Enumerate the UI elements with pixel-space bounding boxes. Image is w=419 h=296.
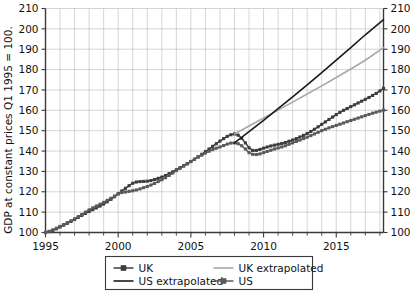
series-marker	[302, 134, 305, 137]
legend-label: UK	[139, 262, 155, 274]
series-marker	[382, 87, 385, 90]
series-marker	[375, 92, 378, 95]
series-marker	[360, 115, 363, 118]
series-marker	[378, 89, 381, 92]
series-marker	[135, 188, 138, 191]
series-marker	[302, 137, 305, 140]
series-marker	[338, 111, 341, 114]
series-marker	[211, 145, 214, 148]
series-marker	[327, 118, 330, 121]
series-marker	[371, 94, 374, 97]
x-tick-label: 2015	[323, 240, 350, 252]
series-marker	[353, 103, 356, 106]
series-marker	[128, 184, 131, 187]
series-marker	[255, 149, 258, 152]
legend-label: US extrapolated	[139, 275, 224, 287]
series-marker	[44, 231, 47, 234]
series-marker	[251, 153, 254, 156]
series-marker	[153, 178, 156, 181]
series-marker	[360, 100, 363, 103]
series-marker	[73, 217, 76, 220]
axes	[46, 9, 384, 233]
series-marker	[222, 137, 225, 140]
series-marker	[306, 136, 309, 139]
y-tick-label: 200	[18, 23, 38, 35]
series-marker	[178, 167, 181, 170]
series-marker	[164, 176, 167, 179]
y-tick-label-right: 120	[391, 185, 411, 197]
series-marker	[382, 109, 385, 112]
series-marker	[244, 147, 247, 150]
series-marker	[324, 128, 327, 131]
series-marker	[320, 123, 323, 126]
series-marker	[175, 169, 178, 172]
series-marker	[106, 199, 109, 202]
x-axis-ticks: 19952000200520102015	[32, 233, 380, 252]
y-tick-label: 130	[18, 165, 38, 177]
series-marker	[237, 134, 240, 137]
series-marker	[124, 190, 127, 193]
series-marker	[346, 120, 349, 123]
series-marker	[349, 105, 352, 108]
y-tick-label: 180	[18, 63, 38, 75]
y-tick-label: 160	[18, 104, 38, 116]
y-tick-label-right: 160	[391, 104, 411, 116]
x-tick-label: 1995	[32, 240, 59, 252]
x-tick-label: 2005	[178, 240, 205, 252]
series-marker	[226, 143, 229, 146]
series-marker	[55, 227, 58, 230]
series-marker	[182, 165, 185, 168]
chart-canvas: 100110120130140150160170180190200210 100…	[0, 0, 419, 296]
series-marker	[215, 142, 218, 145]
series-marker	[229, 133, 232, 136]
series-marker	[88, 208, 91, 211]
grid-lines	[46, 9, 384, 233]
y-tick-label: 100	[18, 226, 38, 238]
series-marker	[309, 134, 312, 137]
series-marker	[91, 206, 94, 209]
series-marker	[298, 135, 301, 138]
gdp-chart-figure: 100110120130140150160170180190200210 100…	[0, 0, 419, 296]
y-tick-label: 150	[18, 124, 38, 136]
series-marker	[171, 171, 174, 174]
y-axis-ticks-right: 100110120130140150160170180190200210	[384, 2, 411, 238]
series-marker	[204, 152, 207, 155]
series-marker	[295, 137, 298, 140]
series-marker	[338, 123, 341, 126]
y-axis-title: GDP at constant prices Q1 1995 = 100.	[2, 26, 14, 234]
series-marker	[95, 204, 98, 207]
series-marker	[113, 195, 116, 198]
series-marker	[211, 148, 214, 151]
series-marker	[258, 152, 261, 155]
y-tick-label-right: 200	[391, 23, 411, 35]
series-marker	[186, 162, 189, 165]
series-marker	[102, 201, 105, 204]
y-tick-label-right: 110	[391, 206, 411, 218]
x-tick-label: 2010	[250, 240, 277, 252]
y-tick-label-right: 180	[391, 63, 411, 75]
series-marker	[98, 203, 101, 206]
series-marker	[335, 113, 338, 116]
series-marker	[346, 107, 349, 110]
series-marker	[284, 144, 287, 147]
legend-swatch-marker	[121, 265, 127, 271]
series-marker	[142, 180, 145, 183]
series-marker	[291, 139, 294, 142]
series-marker	[295, 140, 298, 143]
series-marker	[131, 182, 134, 185]
series-marker	[367, 113, 370, 116]
series-marker	[375, 111, 378, 114]
series-marker	[262, 151, 265, 154]
series-marker	[273, 147, 276, 150]
series-marker	[80, 213, 83, 216]
y-tick-label: 170	[18, 84, 38, 96]
series-marker	[193, 158, 196, 161]
series-line-us-extrapolated	[234, 20, 383, 143]
series-marker	[280, 142, 283, 145]
series-marker	[69, 219, 72, 222]
y-tick-label: 110	[18, 206, 38, 218]
series-marker	[66, 221, 69, 224]
series-marker	[208, 150, 211, 153]
series-marker	[291, 141, 294, 144]
series-marker	[287, 143, 290, 146]
